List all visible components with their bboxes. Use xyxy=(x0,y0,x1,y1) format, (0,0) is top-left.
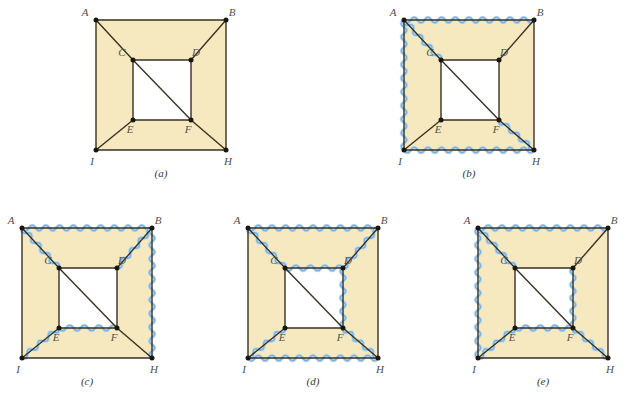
graph-vertex-H xyxy=(532,148,537,153)
vertex-label-D: D xyxy=(573,254,582,266)
vertex-label-C: C xyxy=(426,46,434,58)
vertex-label-B: B xyxy=(381,214,388,226)
graph-vertex-I xyxy=(402,148,407,153)
graph-vertex-E xyxy=(439,118,444,123)
vertex-label-C: C xyxy=(500,254,508,266)
graph-vertex-C xyxy=(57,266,62,271)
vertex-label-A: A xyxy=(81,6,89,18)
graph-vertex-I xyxy=(476,356,481,361)
vertex-label-H: H xyxy=(531,155,541,167)
graph-panel-c: ABCDEFIH(c) xyxy=(6,212,182,390)
vertex-label-E: E xyxy=(434,123,442,135)
graph-vertex-F xyxy=(189,118,194,123)
graph-vertex-H xyxy=(606,356,611,361)
panel-caption-d: (d) xyxy=(307,375,320,388)
graph-vertex-A xyxy=(20,226,25,231)
graph-vertex-B xyxy=(224,18,229,23)
graph-vertex-E xyxy=(513,326,518,331)
figure-board: ABCDEFIH(a)ABCDEFIH(b)ABCDEFIH(c)ABCDEFI… xyxy=(0,0,644,418)
graph-vertex-I xyxy=(246,356,251,361)
panel-caption-c: (c) xyxy=(81,375,94,388)
graph-vertex-A xyxy=(476,226,481,231)
vertex-label-H: H xyxy=(223,155,233,167)
graph-vertex-H xyxy=(376,356,381,361)
vertex-label-C: C xyxy=(118,46,126,58)
vertex-label-B: B xyxy=(537,6,544,18)
graph-panel-e: ABCDEFIH(e) xyxy=(462,212,638,390)
graph-vertex-I xyxy=(20,356,25,361)
graph-vertex-C xyxy=(439,58,444,63)
vertex-label-F: F xyxy=(336,331,344,343)
graph-vertex-H xyxy=(150,356,155,361)
vertex-label-B: B xyxy=(229,6,236,18)
vertex-label-H: H xyxy=(375,363,385,375)
graph-vertex-A xyxy=(246,226,251,231)
vertex-label-I: I xyxy=(15,363,21,375)
vertex-label-E: E xyxy=(52,331,60,343)
panel-caption-a: (a) xyxy=(155,167,168,180)
graph-vertex-E xyxy=(283,326,288,331)
vertex-label-A: A xyxy=(7,214,15,226)
vertex-label-D: D xyxy=(117,254,126,266)
vertex-label-C: C xyxy=(44,254,52,266)
graph-vertex-B xyxy=(376,226,381,231)
graph-vertex-E xyxy=(57,326,62,331)
graph-vertex-D xyxy=(341,266,346,271)
graph-vertex-B xyxy=(532,18,537,23)
vertex-label-F: F xyxy=(566,331,574,343)
graph-vertex-D xyxy=(497,58,502,63)
vertex-label-D: D xyxy=(499,46,508,58)
vertex-label-H: H xyxy=(149,363,159,375)
vertex-label-A: A xyxy=(389,6,397,18)
graph-vertex-B xyxy=(150,226,155,231)
graph-vertex-F xyxy=(341,326,346,331)
graph-vertex-C xyxy=(513,266,518,271)
graph-panel-d: ABCDEFIH(d) xyxy=(232,212,408,390)
graph-vertex-C xyxy=(131,58,136,63)
vertex-label-I: I xyxy=(241,363,247,375)
vertex-label-I: I xyxy=(471,363,477,375)
vertex-label-E: E xyxy=(508,331,516,343)
graph-vertex-F xyxy=(571,326,576,331)
graph-vertex-D xyxy=(571,266,576,271)
graph-vertex-C xyxy=(283,266,288,271)
graph-vertex-D xyxy=(115,266,120,271)
vertex-label-F: F xyxy=(492,123,500,135)
graph-vertex-I xyxy=(94,148,99,153)
graph-vertex-F xyxy=(115,326,120,331)
vertex-label-F: F xyxy=(184,123,192,135)
graph-vertex-B xyxy=(606,226,611,231)
vertex-label-E: E xyxy=(278,331,286,343)
vertex-label-B: B xyxy=(611,214,618,226)
vertex-label-D: D xyxy=(343,254,352,266)
panel-caption-e: (e) xyxy=(537,375,550,388)
graph-vertex-A xyxy=(402,18,407,23)
graph-panel-b: ABCDEFIH(b) xyxy=(388,4,564,182)
vertex-label-F: F xyxy=(110,331,118,343)
vertex-label-B: B xyxy=(155,214,162,226)
graph-panel-a: ABCDEFIH(a) xyxy=(80,4,256,182)
graph-vertex-E xyxy=(131,118,136,123)
vertex-label-I: I xyxy=(397,155,403,167)
vertex-label-D: D xyxy=(191,46,200,58)
vertex-label-A: A xyxy=(233,214,241,226)
graph-vertex-F xyxy=(497,118,502,123)
vertex-label-E: E xyxy=(126,123,134,135)
vertex-label-C: C xyxy=(270,254,278,266)
vertex-label-A: A xyxy=(463,214,471,226)
graph-vertex-D xyxy=(189,58,194,63)
vertex-label-H: H xyxy=(605,363,615,375)
vertex-label-I: I xyxy=(89,155,95,167)
graph-vertex-A xyxy=(94,18,99,23)
panel-caption-b: (b) xyxy=(463,167,476,180)
graph-vertex-H xyxy=(224,148,229,153)
